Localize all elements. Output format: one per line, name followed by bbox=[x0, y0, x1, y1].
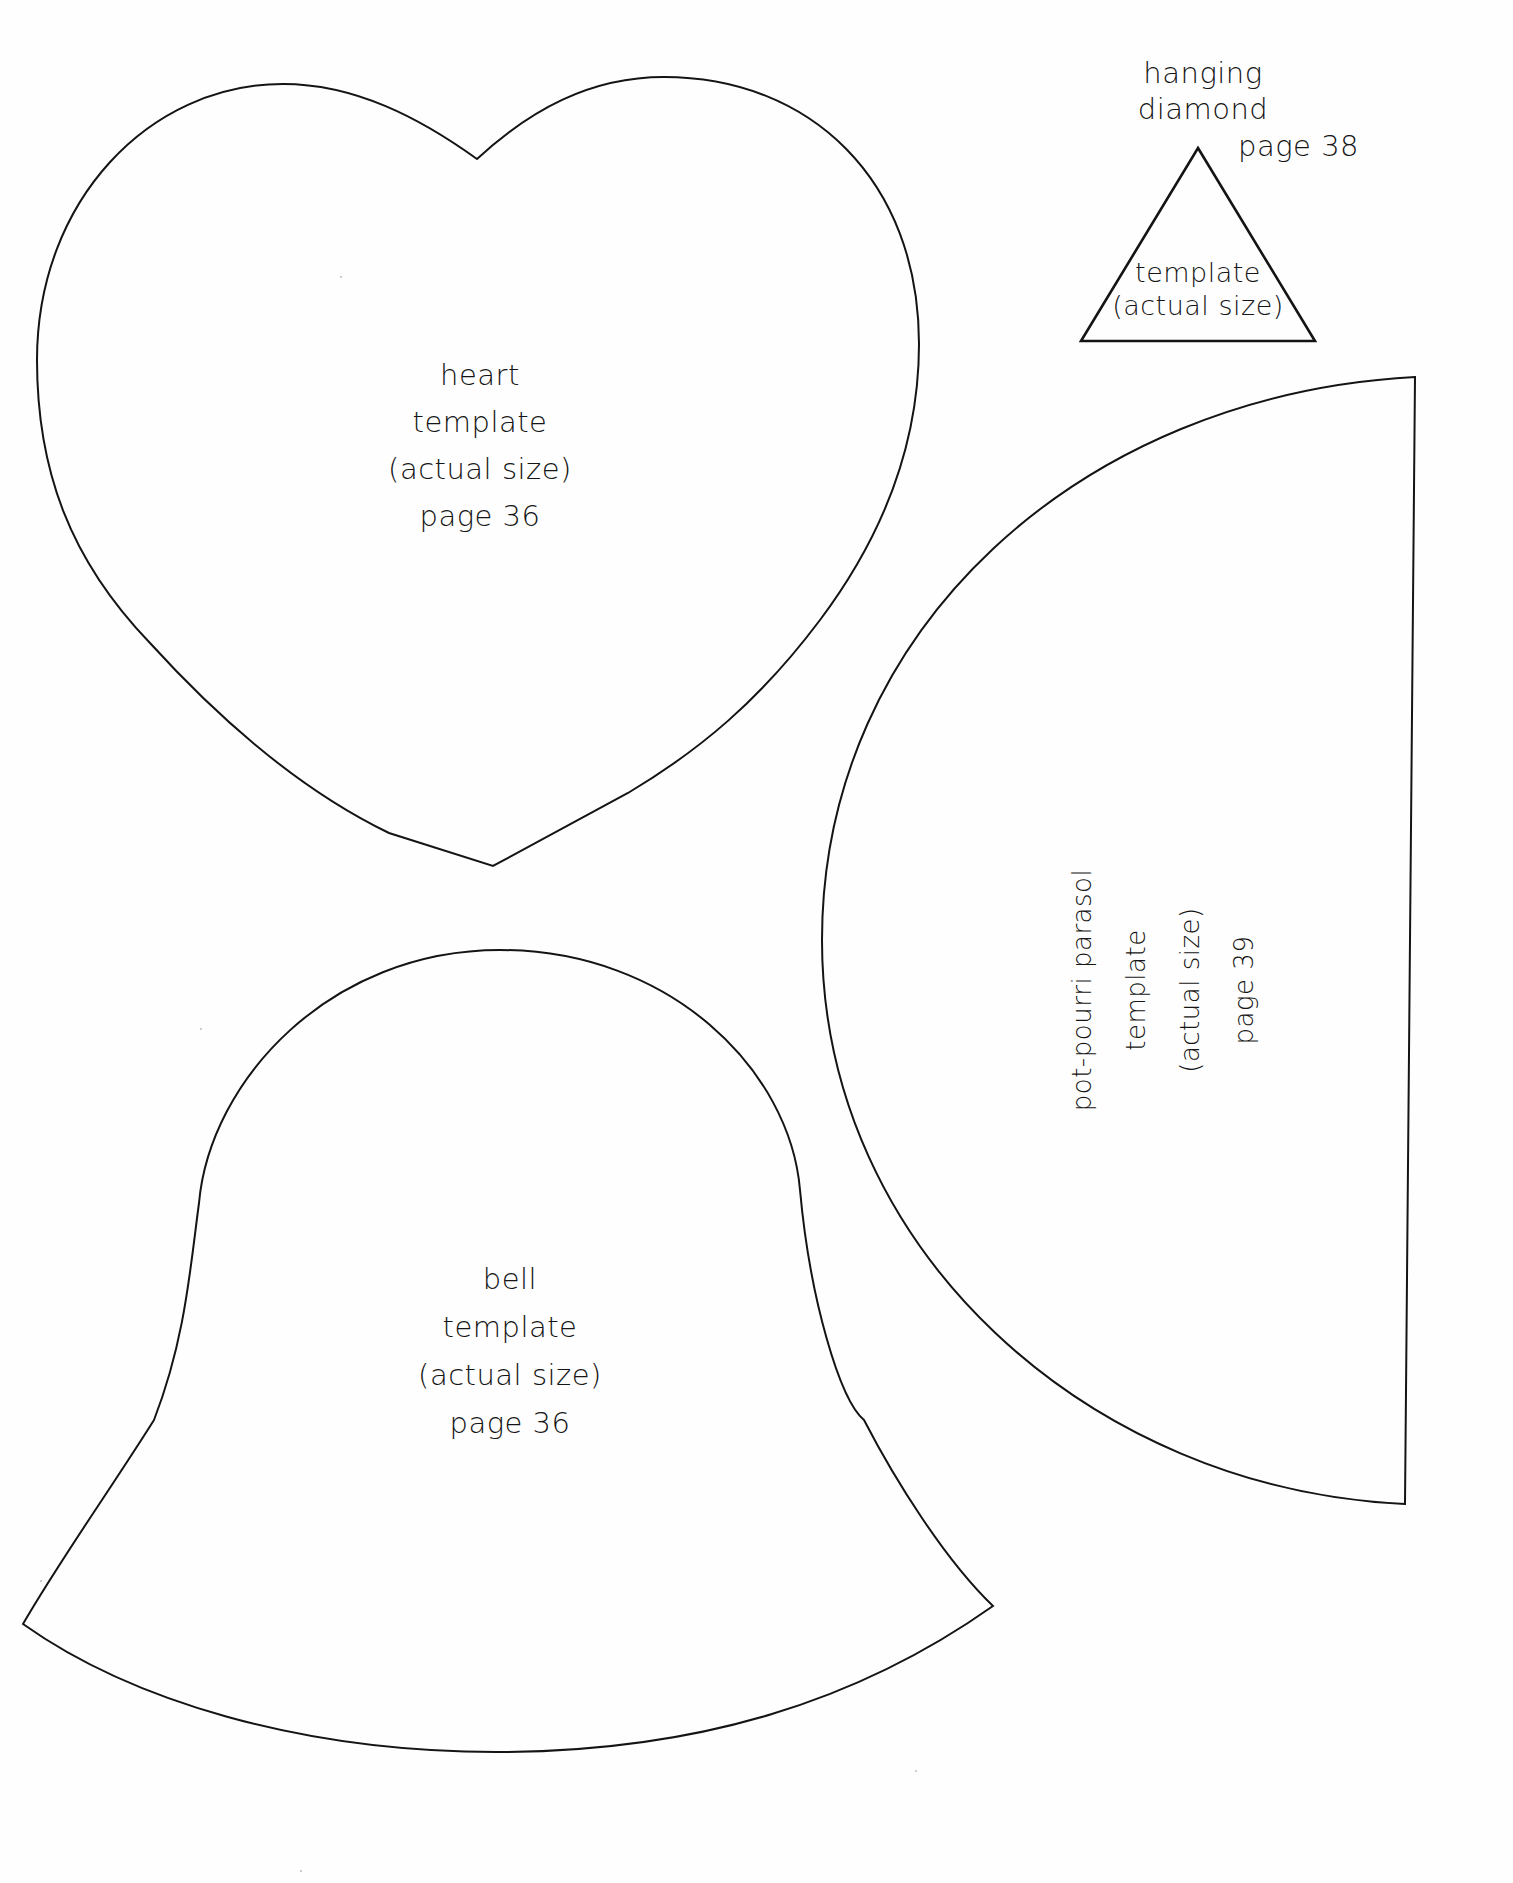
scan-speck bbox=[300, 1870, 302, 1872]
parasol-label-rotated: pot-pourri parasol template (actual size… bbox=[1055, 840, 1271, 1140]
parasol-size-note: (actual size) bbox=[1163, 840, 1217, 1140]
diamond-title-label: hanging diamond bbox=[1118, 55, 1288, 127]
heart-template-word: template bbox=[380, 399, 580, 446]
parasol-template-word: template bbox=[1109, 840, 1163, 1140]
heart-page-ref: page 36 bbox=[380, 493, 580, 540]
bell-size-note: (actual size) bbox=[410, 1351, 610, 1399]
scan-speck bbox=[40, 1580, 42, 1582]
bell-template-label: bell template (actual size) page 36 bbox=[410, 1255, 610, 1447]
heart-size-note: (actual size) bbox=[380, 446, 580, 493]
scan-speck bbox=[200, 1028, 202, 1030]
scan-speck bbox=[340, 276, 342, 278]
heart-template-label: heart template (actual size) page 36 bbox=[380, 352, 580, 540]
bell-title: bell bbox=[410, 1255, 610, 1303]
bell-page-ref: page 36 bbox=[410, 1399, 610, 1447]
diamond-title-line-2: diamond bbox=[1118, 91, 1288, 127]
bell-template-word: template bbox=[410, 1303, 610, 1351]
heart-title: heart bbox=[380, 352, 580, 399]
diamond-inner-label: template (actual size) bbox=[1100, 256, 1296, 322]
diamond-page-ref: page 38 bbox=[1238, 128, 1358, 164]
diamond-size-note: (actual size) bbox=[1100, 289, 1296, 322]
scan-speck bbox=[915, 1770, 917, 1772]
template-sheet: heart template (actual size) page 36 bel… bbox=[0, 0, 1513, 1883]
diamond-template-word: template bbox=[1100, 256, 1296, 289]
diamond-page-text: page 38 bbox=[1238, 128, 1358, 164]
parasol-title: pot-pourri parasol bbox=[1055, 840, 1109, 1140]
diamond-title-line-1: hanging bbox=[1118, 55, 1288, 91]
parasol-page-ref: page 39 bbox=[1217, 840, 1271, 1140]
